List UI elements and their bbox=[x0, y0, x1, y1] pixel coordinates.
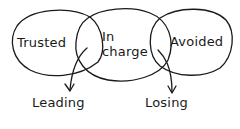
avoided-label: Avoided bbox=[170, 35, 223, 48]
leading-arrow-line bbox=[70, 48, 87, 90]
leading-arrow-head bbox=[65, 84, 74, 91]
in-charge-label-line2: charge bbox=[102, 44, 150, 59]
trusted-label: Trusted bbox=[17, 36, 66, 49]
losing-label: Losing bbox=[145, 96, 188, 109]
leading-label: Leading bbox=[32, 96, 85, 109]
in-charge-label: In charge bbox=[102, 29, 150, 59]
in-charge-label-line1: In bbox=[102, 29, 150, 44]
